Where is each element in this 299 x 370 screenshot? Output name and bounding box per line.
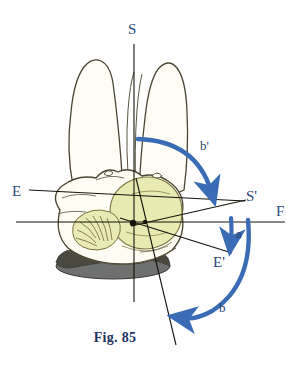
figure-caption: Fig. 85 (0, 330, 230, 346)
axis-label-E: E (12, 184, 21, 199)
figure-container: S E S' F E' b' a b Fig. 85 (0, 0, 299, 370)
illustration-group (55, 60, 187, 279)
axis-label-S: S (128, 22, 136, 37)
axes-origin-node (130, 220, 136, 226)
figure-illustration (0, 0, 299, 370)
arrow-a (231, 218, 232, 241)
axis-label-S-prime: S' (246, 189, 257, 204)
arc-label-a: a (236, 227, 242, 240)
axes-secondary-node (143, 220, 147, 224)
axis-label-E-prime: E' (213, 255, 225, 270)
arc-label-b-prime: b' (200, 139, 209, 152)
perineum-fan (73, 210, 121, 250)
fetal-head (110, 177, 182, 249)
arc-label-b: b (219, 301, 226, 314)
axis-label-F: F (276, 204, 284, 219)
